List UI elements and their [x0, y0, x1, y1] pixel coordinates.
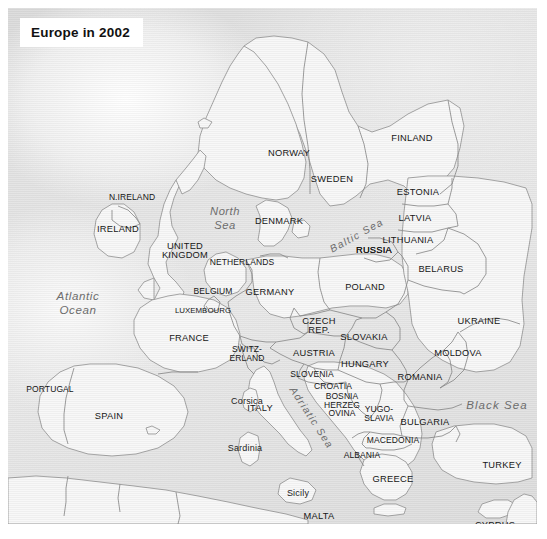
country-label-portugal: PORTUGAL: [26, 385, 73, 394]
country-label-netherlands: NETHERLANDS: [210, 258, 274, 267]
country-label-romania: ROMANIA: [397, 373, 442, 382]
sea-label-mediterranean-sea: Mediterranean Sea: [243, 468, 537, 524]
country-label-slovenia: SLOVENIA: [290, 370, 333, 379]
country-label-moldova: MOLDOVA: [434, 349, 482, 358]
sea-label-north-sea: North Sea: [210, 204, 240, 232]
country-label-france: FRANCE: [169, 334, 209, 343]
island-label-corsica: Corsica: [231, 397, 263, 406]
country-label-denmark: DENMARK: [255, 217, 303, 226]
country-label-slovakia: SLOVAKIA: [340, 333, 387, 342]
country-label-latvia: LATVIA: [399, 214, 432, 223]
country-label-belarus: BELARUS: [418, 265, 463, 274]
country-label-estonia: ESTONIA: [397, 188, 439, 197]
country-label-russia-kaliningrad: RUSSIA: [356, 246, 392, 255]
country-label-united-kingdom: UNITED KINGDOM: [162, 242, 208, 261]
country-label-belgium: BELGIUM: [194, 287, 233, 296]
sea-label-black-sea: Black Sea: [466, 400, 528, 412]
country-label-switzerland: SWITZ- ERLAND: [229, 345, 264, 362]
country-label-austria: AUSTRIA: [293, 349, 335, 358]
country-label-sweden: SWEDEN: [311, 175, 353, 184]
country-label-macedonia: MACEDONIA: [367, 436, 419, 445]
country-label-luxembourg: LUXEMBOURG: [175, 307, 231, 315]
country-label-finland: FINLAND: [391, 134, 433, 143]
country-label-croatia: CROATIA: [314, 382, 352, 391]
country-label-bulgaria: BULGARIA: [400, 418, 449, 427]
country-label-spain: SPAIN: [95, 412, 123, 421]
country-label-yugoslavia: YUGO- SLAVIA: [364, 405, 394, 422]
country-label-ukraine: UKRAINE: [457, 317, 500, 326]
map-label-layer: N.IRELAND IRELAND UNITED KINGDOM NORWAY …: [8, 8, 537, 524]
country-label-czech-rep: CZECH REP.: [302, 317, 335, 336]
country-label-n-ireland: N.IRELAND: [109, 193, 155, 202]
europe-map-figure: N.IRELAND IRELAND UNITED KINGDOM NORWAY …: [0, 0, 547, 539]
country-label-norway: NORWAY: [268, 149, 310, 158]
map-title-plate: Europe in 2002: [20, 18, 143, 47]
country-label-poland: POLAND: [345, 283, 385, 292]
country-label-hungary: HUNGARY: [341, 360, 389, 369]
country-label-ireland: IRELAND: [97, 225, 139, 234]
map-frame: N.IRELAND IRELAND UNITED KINGDOM NORWAY …: [8, 8, 537, 524]
island-label-sardinia: Sardinia: [228, 444, 263, 453]
country-label-germany: GERMANY: [246, 288, 295, 297]
sea-label-atlantic-ocean: Atlantic Ocean: [57, 289, 100, 318]
map-title-text: Europe in 2002: [31, 25, 130, 40]
country-label-albania: ALBANIA: [344, 451, 381, 460]
country-label-bosnia-herzegovina: BOSNIA HERZEG OVINA: [324, 392, 360, 418]
